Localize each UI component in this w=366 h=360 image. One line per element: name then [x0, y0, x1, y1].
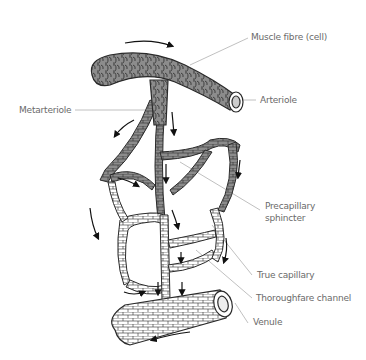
label-precapillary-line1: Precapillary — [265, 201, 315, 212]
label-thoroughfare-channel: Thoroughfare channel — [256, 293, 351, 304]
diagram-illustration — [0, 0, 366, 360]
label-arteriole: Arteriole — [260, 95, 297, 106]
arteriole — [91, 53, 243, 125]
label-precapillary-line2: sphincter — [265, 213, 305, 224]
label-metarteriole: Metarteriole — [19, 105, 71, 116]
venule — [112, 289, 235, 345]
capillary-network-upper — [100, 100, 240, 220]
label-true-capillary: True capillary — [257, 270, 314, 281]
capillary-network-lower — [108, 182, 224, 300]
label-muscle-fibre: Muscle fibre (cell) — [251, 32, 327, 43]
capillary-bed-diagram: Muscle fibre (cell) Arteriole Metarterio… — [0, 0, 366, 360]
label-venule: Venule — [253, 317, 282, 328]
